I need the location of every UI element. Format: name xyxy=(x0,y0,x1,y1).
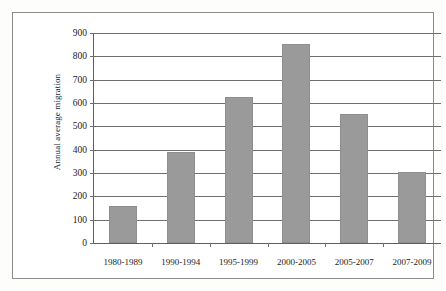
y-axis-tick xyxy=(90,243,94,244)
y-axis-title: Annual average migration xyxy=(52,42,62,202)
x-axis-tick xyxy=(268,243,269,247)
x-axis-tick-label: 1995-1999 xyxy=(219,257,258,267)
x-axis-tick-label: 2000-2005 xyxy=(277,257,316,267)
x-axis-tick-label: 2005-2007 xyxy=(335,257,374,267)
x-axis-tick-label: 1980-1989 xyxy=(103,257,142,267)
bar xyxy=(225,97,253,243)
y-axis-tick-label: 0 xyxy=(82,238,87,248)
figure-frame: Annual average migration 010020030040050… xyxy=(12,12,434,279)
y-axis-tick-label: 500 xyxy=(73,121,87,131)
x-axis-tick xyxy=(325,243,326,247)
bar xyxy=(167,152,195,243)
bar xyxy=(282,44,310,243)
x-axis-tick xyxy=(152,243,153,247)
y-axis-tick-label: 600 xyxy=(73,98,87,108)
bar-series xyxy=(94,33,441,243)
plot-area: 0100200300400500600700800900 1980-198919… xyxy=(94,33,441,243)
y-axis-tick-label: 200 xyxy=(73,191,87,201)
x-axis-tick-label: 1990-1994 xyxy=(161,257,200,267)
bar xyxy=(109,206,137,243)
y-axis-tick-label: 100 xyxy=(73,215,87,225)
y-axis-tick-label: 400 xyxy=(73,145,87,155)
chart-page: Annual average migration 010020030040050… xyxy=(0,0,446,291)
y-axis-tick-label: 900 xyxy=(73,28,87,38)
y-axis-tick-label: 300 xyxy=(73,168,87,178)
y-axis-tick-label: 700 xyxy=(73,75,87,85)
x-axis-tick-label: 2007-2009 xyxy=(393,257,432,267)
x-axis-tick xyxy=(383,243,384,247)
bar xyxy=(398,172,426,243)
x-axis-tick xyxy=(210,243,211,247)
y-axis-tick-label: 800 xyxy=(73,51,87,61)
bar xyxy=(340,114,368,243)
